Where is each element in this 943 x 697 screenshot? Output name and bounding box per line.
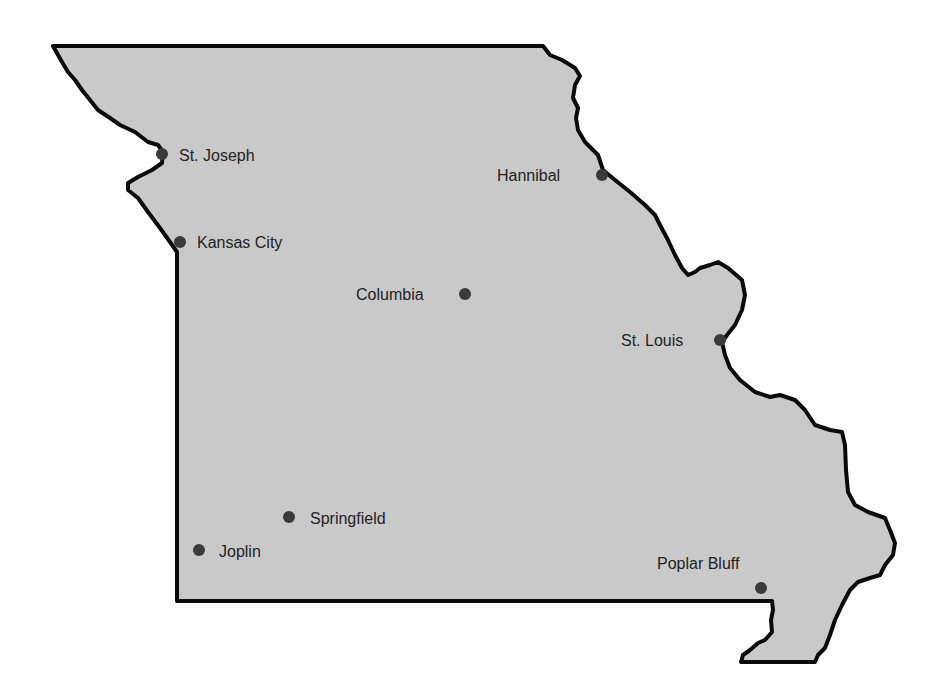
missouri-state-outline <box>53 46 895 662</box>
city-dot-hannibal <box>596 169 608 181</box>
city-label-joplin: Joplin <box>219 544 261 560</box>
city-dot-columbia <box>459 288 471 300</box>
city-label-st-louis: St. Louis <box>621 333 683 349</box>
city-label-kansas-city: Kansas City <box>197 235 282 251</box>
city-label-hannibal: Hannibal <box>497 168 560 184</box>
city-label-poplar-bluff: Poplar Bluff <box>657 556 739 572</box>
city-dot-kansas-city <box>174 236 186 248</box>
city-label-columbia: Columbia <box>356 287 424 303</box>
city-dot-springfield <box>283 511 295 523</box>
city-label-springfield: Springfield <box>310 511 386 527</box>
city-label-st-joseph: St. Joseph <box>179 148 255 164</box>
city-dot-st-joseph <box>156 148 168 160</box>
city-dot-poplar-bluff <box>755 582 767 594</box>
city-dot-st-louis <box>714 334 726 346</box>
missouri-map <box>0 0 943 697</box>
city-dot-joplin <box>193 544 205 556</box>
